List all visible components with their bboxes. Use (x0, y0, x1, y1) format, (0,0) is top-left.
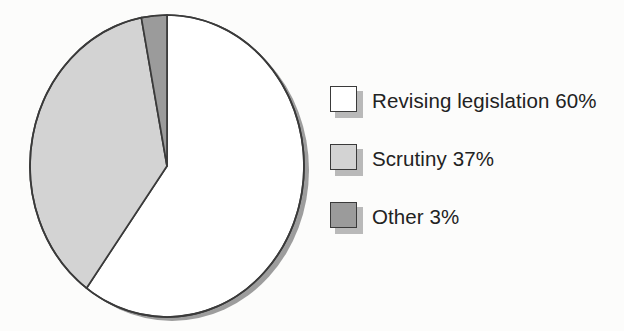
legend-swatch-revising-legislation (328, 84, 372, 118)
legend-swatch-other (328, 200, 372, 234)
legend-item-revising-legislation: Revising legislation 60% (328, 72, 618, 130)
pie-chart-figure: Revising legislation 60% Scrutiny 37% Ot… (0, 0, 624, 331)
pie-chart (18, 4, 318, 329)
legend-label-revising-legislation: Revising legislation 60% (372, 91, 597, 112)
legend-color-box-icon (330, 86, 357, 112)
legend-item-scrutiny: Scrutiny 37% (328, 130, 618, 188)
legend-swatch-scrutiny (328, 142, 372, 176)
legend-label-other: Other 3% (372, 207, 459, 228)
legend-label-scrutiny: Scrutiny 37% (372, 149, 494, 170)
legend-color-box-icon (330, 202, 357, 228)
legend-item-other: Other 3% (328, 188, 618, 246)
pie-chart-svg (18, 4, 318, 329)
chart-legend: Revising legislation 60% Scrutiny 37% Ot… (328, 72, 618, 246)
legend-color-box-icon (330, 144, 357, 170)
